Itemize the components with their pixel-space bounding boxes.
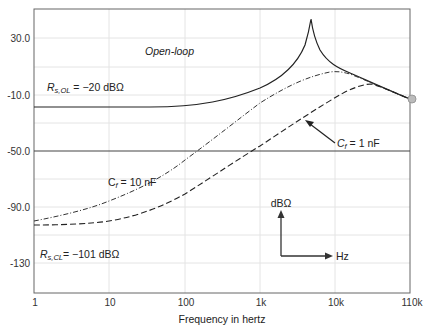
cf-10nf-label: Cf = 10 nF [108, 176, 157, 190]
x-axis-ticks: 1 10 100 1k 10k 110k [32, 297, 423, 308]
cf-1nf-curve [34, 84, 410, 225]
open-loop-curve [34, 19, 410, 107]
rs-cl-label: Rs,CL= −101 dBΩ [40, 248, 119, 262]
x-tick: 10 [104, 297, 116, 308]
x-tick: 1k [256, 297, 268, 308]
chart: 30.0 -10.0 -50.0 -90.0 -130 1 10 100 1k … [0, 0, 431, 335]
rs-ol-label: Rs,OL = −20 dBΩ [47, 81, 124, 95]
open-loop-label: Open-loop [145, 45, 194, 57]
unit-y-label: dBΩ [271, 197, 292, 209]
y-tick: -10.0 [7, 90, 30, 101]
x-tick: 1 [32, 297, 38, 308]
y-tick: -130 [10, 258, 30, 269]
y-tick: 30.0 [11, 33, 31, 44]
y-tick: -90.0 [7, 202, 30, 213]
x-tick: 10k [328, 297, 345, 308]
end-point-marker [408, 95, 416, 103]
cf-1nf-label: Cf = 1 nF [337, 137, 380, 151]
x-tick: 100 [178, 297, 195, 308]
x-axis-label: Frequency in hertz [179, 313, 266, 325]
x-tick: 110k [402, 297, 424, 308]
y-axis-ticks: 30.0 -10.0 -50.0 -90.0 -130 [7, 33, 30, 269]
unit-x-label: Hz [336, 250, 349, 262]
y-tick: -50.0 [7, 146, 30, 157]
